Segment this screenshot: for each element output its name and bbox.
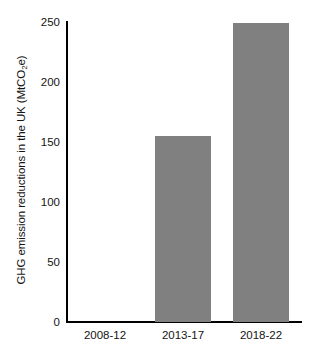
bar xyxy=(155,136,212,322)
x-axis-tick-label: 2008-12 xyxy=(84,329,126,341)
x-axis-tick-labels: 2008-122013-172018-22 xyxy=(66,329,302,349)
y-axis-tick-labels: 050100150200250 xyxy=(0,0,60,363)
y-axis-tick-label: 200 xyxy=(0,76,60,88)
y-axis-tick-label: 0 xyxy=(0,316,60,328)
plot-area xyxy=(66,22,300,322)
x-axis-tick-label: 2018-22 xyxy=(240,329,282,341)
bar-chart: GHG emission reductions in the UK (MtCO2… xyxy=(0,0,320,363)
y-axis-tick-label: 50 xyxy=(0,256,60,268)
x-axis-tick-label: 2013-17 xyxy=(162,329,204,341)
y-axis-tick-label: 250 xyxy=(0,16,60,28)
y-axis-tick-label: 150 xyxy=(0,136,60,148)
y-axis-tick-label: 100 xyxy=(0,196,60,208)
bar xyxy=(233,23,290,322)
